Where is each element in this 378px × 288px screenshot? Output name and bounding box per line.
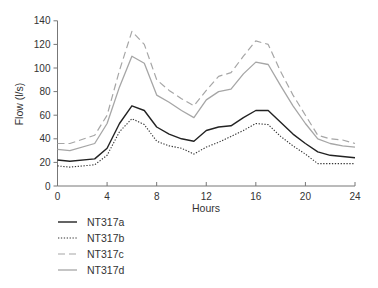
series-line-nt317b <box>58 119 356 167</box>
legend-label: NT317a <box>87 216 125 228</box>
x-tick-label: 16 <box>250 191 262 202</box>
legend-item-nt317d: NT317d <box>58 264 125 276</box>
legend-item-nt317c: NT317c <box>58 248 124 260</box>
legend-label: NT317c <box>87 248 124 260</box>
series-layer <box>58 31 356 167</box>
flow-line-chart: 020406080100120140 04812162024 Hours Flo… <box>0 0 378 288</box>
series-line-nt317a <box>58 106 356 161</box>
series-line-nt317d <box>58 56 356 150</box>
series-line-nt317c <box>58 31 356 143</box>
legend-label: NT317b <box>87 232 125 244</box>
y-tick-label: 60 <box>39 110 51 121</box>
x-axis: 04812162024 <box>55 182 361 202</box>
y-tick-label: 140 <box>34 15 51 26</box>
y-tick-label: 80 <box>39 86 51 97</box>
legend-item-nt317a: NT317a <box>58 216 125 228</box>
x-tick-label: 24 <box>349 191 361 202</box>
y-tick-label: 120 <box>34 39 51 50</box>
x-tick-label: 0 <box>55 191 61 202</box>
legend: NT317aNT317bNT317cNT317d <box>58 216 125 276</box>
y-tick-label: 20 <box>39 157 51 168</box>
y-axis-title: Flow (l/s) <box>13 83 25 126</box>
x-tick-label: 20 <box>300 191 312 202</box>
y-axis: 020406080100120140 <box>34 15 58 191</box>
x-tick-label: 4 <box>104 191 110 202</box>
y-tick-label: 100 <box>34 63 51 74</box>
y-tick-label: 40 <box>39 133 51 144</box>
y-tick-label: 0 <box>45 181 51 192</box>
x-tick-label: 8 <box>154 191 160 202</box>
chart-canvas: 020406080100120140 04812162024 Hours Flo… <box>0 0 378 288</box>
legend-label: NT317d <box>87 264 125 276</box>
x-tick-label: 12 <box>201 191 213 202</box>
x-axis-title: Hours <box>192 202 220 214</box>
legend-item-nt317b: NT317b <box>58 232 125 244</box>
